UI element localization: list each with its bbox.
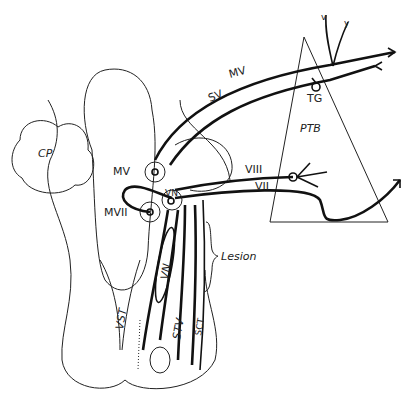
bottom-nucleus xyxy=(150,347,170,373)
label-sv-tract: SV xyxy=(206,87,225,105)
vii-nerve xyxy=(175,180,400,220)
label-vii: VII xyxy=(255,180,269,193)
brainstem-outline xyxy=(48,100,217,389)
tg-ganglion-icon xyxy=(312,83,320,91)
central-lobe xyxy=(84,69,155,290)
cerebellar-peduncle xyxy=(12,121,94,194)
sv-tract xyxy=(170,66,375,165)
label-tg: TG xyxy=(306,92,322,105)
label-sct: SCT xyxy=(193,317,206,336)
label-vn: VN xyxy=(165,188,178,198)
nerve-branch xyxy=(333,22,348,66)
label-lesion: Lesion xyxy=(221,250,256,263)
label-vst: VST xyxy=(113,306,130,330)
brainstem-diagram: v y CP PTB TG MV SV VIII VII MV MVII VN … xyxy=(0,0,413,397)
label-mv-nucleus: MV xyxy=(113,165,130,178)
nerve-branch xyxy=(326,15,333,66)
viii-nerve xyxy=(175,177,293,190)
branch-tip: y xyxy=(344,18,350,28)
label-vn-column: VN xyxy=(158,263,174,281)
brainstem-outline-right xyxy=(180,100,230,180)
mv-nucleus-outline xyxy=(145,162,165,182)
mv-nucleus-icon xyxy=(152,169,158,175)
mv-tract xyxy=(155,52,395,160)
label-cp: CP xyxy=(38,147,53,160)
label-mv-tract: MV xyxy=(227,64,247,81)
label-stv: STV xyxy=(170,316,187,341)
branch-tip: v xyxy=(321,12,327,22)
label-ptb: PTB xyxy=(300,122,321,135)
label-mvii-nucleus: MVII xyxy=(104,206,128,219)
arrow-head xyxy=(375,62,382,70)
label-viii: VIII xyxy=(245,163,262,176)
